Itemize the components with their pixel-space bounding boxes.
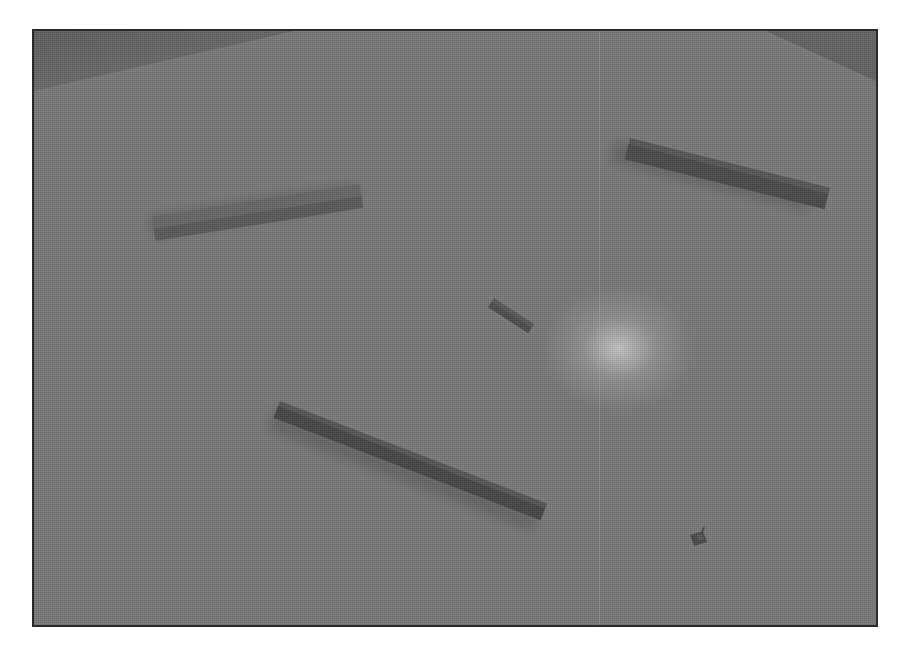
horizon-shadow-left — [34, 31, 294, 91]
wall-center-small — [488, 298, 534, 333]
horizon-shadow-right — [766, 31, 876, 81]
game-viewport[interactable] — [32, 29, 878, 627]
wall-left-upper — [152, 184, 363, 241]
texture-overlay — [34, 31, 876, 625]
light-spot — [544, 286, 694, 411]
tank-icon[interactable] — [689, 527, 711, 547]
wall-lower-long — [274, 401, 547, 520]
